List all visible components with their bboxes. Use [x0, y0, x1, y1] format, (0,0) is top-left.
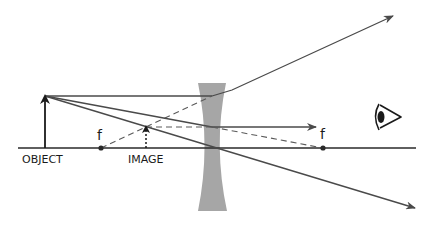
focal-label-right: f	[320, 126, 326, 142]
ray-toward-focus	[45, 96, 323, 148]
image-arrow	[142, 125, 150, 148]
ray-toward-focus-dashed-continuation	[212, 127, 323, 148]
eye-icon	[376, 104, 402, 130]
diagram-canvas: f f OBJECT IMAGE	[0, 0, 435, 225]
focal-label-left: f	[97, 127, 103, 143]
ray-through-center	[45, 96, 415, 208]
focal-point-left	[98, 145, 103, 150]
object-arrow	[40, 94, 50, 148]
ray-diagram: f f OBJECT IMAGE	[0, 0, 435, 225]
image-label: IMAGE	[128, 153, 164, 166]
focal-point-right	[320, 145, 325, 150]
ray-parallel-virtual-extension	[101, 96, 212, 148]
object-label: OBJECT	[22, 153, 63, 166]
